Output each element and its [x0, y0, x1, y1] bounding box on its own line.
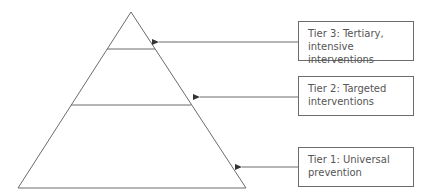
- pyramid-outline: [18, 12, 246, 188]
- tier3-label-line1: Tier 3: Tertiary,: [308, 27, 413, 40]
- tier1-label-box: Tier 1: Universal prevention: [298, 147, 414, 187]
- tier3-label-box: Tier 3: Tertiary, intensive intervention…: [298, 21, 414, 61]
- tier2-label-box: Tier 2: Targeted interventions: [298, 76, 414, 116]
- tier1-label-line1: Tier 1: Universal: [308, 153, 413, 166]
- tier1-label-line2: prevention: [308, 166, 413, 179]
- tier2-label-line2: interventions: [308, 95, 413, 108]
- tier3-label-line2: intensive interventions: [308, 40, 413, 66]
- tier2-label-line1: Tier 2: Targeted: [308, 82, 413, 95]
